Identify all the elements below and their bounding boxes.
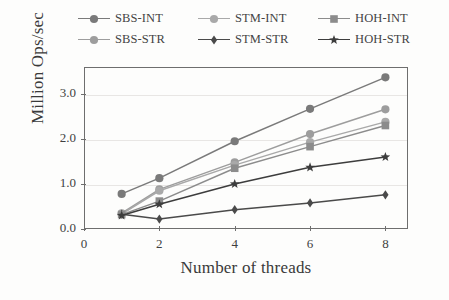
x-axis-title: Number of threads (84, 258, 408, 278)
datapoint-hoh-int-t4 (231, 164, 239, 172)
datapoint-sbs-int-t4 (231, 137, 239, 145)
datapoint-sbs-int-t8 (381, 73, 389, 81)
chart-figure: SBS-INT STM-INT HOH-INT SBS-STR STM-STR … (0, 0, 449, 300)
datapoint-sbs-int-t1 (118, 190, 126, 198)
datapoint-hoh-str-t8 (381, 152, 391, 161)
y-tick-mark-1.0 (81, 184, 86, 185)
datapoint-stm-int-t2 (155, 187, 163, 195)
x-tick-label-2: 2 (144, 236, 174, 252)
datapoint-stm-str-t8 (382, 190, 388, 199)
x-tick-mark-2 (159, 226, 160, 231)
datapoint-stm-str-t2 (156, 215, 162, 224)
datapoint-sbs-int-t6 (306, 105, 314, 113)
chart-series-layer (0, 0, 449, 300)
datapoint-sbs-int-t2 (155, 174, 163, 182)
datapoint-sbs-str-t6 (306, 130, 314, 138)
y-tick-label-2.0: 2.0 (44, 130, 76, 146)
datapoint-sbs-str-t8 (381, 105, 389, 113)
y-tick-label-3.0: 3.0 (44, 85, 76, 101)
x-tick-mark-6 (310, 226, 311, 231)
datapoint-stm-str-t4 (232, 205, 238, 214)
datapoint-hoh-int-t8 (382, 122, 390, 130)
y-tick-label-0.0: 0.0 (44, 220, 76, 236)
y-axis-title: Million Ops/sec (28, 0, 48, 158)
series-stm-str (119, 190, 389, 224)
y-tick-label-1.0: 1.0 (44, 175, 76, 191)
datapoint-hoh-str-t6 (305, 162, 315, 171)
y-tick-mark-3.0 (81, 94, 86, 95)
x-tick-label-4: 4 (220, 236, 250, 252)
x-tick-label-0: 0 (69, 236, 99, 252)
x-tick-mark-4 (235, 226, 236, 231)
x-tick-mark-0 (84, 226, 85, 231)
y-tick-mark-2.0 (81, 139, 86, 140)
datapoint-hoh-str-t4 (230, 179, 240, 188)
x-tick-label-8: 8 (370, 236, 400, 252)
datapoint-stm-str-t6 (307, 198, 313, 207)
datapoint-hoh-int-t6 (306, 143, 314, 151)
x-tick-label-6: 6 (295, 236, 325, 252)
x-tick-mark-8 (385, 226, 386, 231)
